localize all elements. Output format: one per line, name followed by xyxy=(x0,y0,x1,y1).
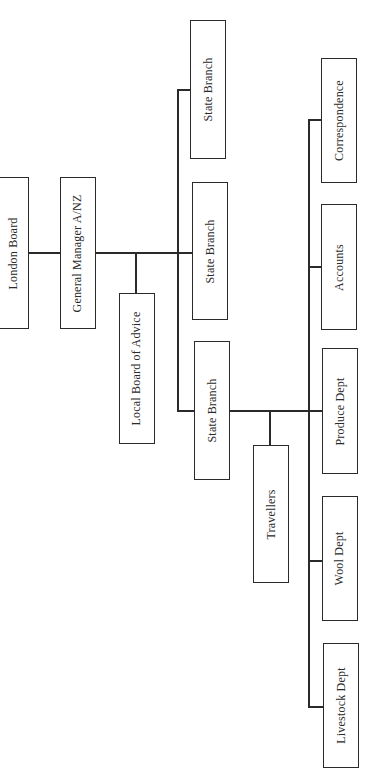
node-label: Wool Dept xyxy=(333,532,348,586)
node-label: Produce Dept xyxy=(333,377,348,445)
node-label: London Board xyxy=(6,217,21,289)
node-accounts: Accounts xyxy=(321,204,357,330)
node-label: Local Board of Advice xyxy=(130,312,145,426)
connector-branch-top xyxy=(177,89,190,91)
connector-travellers xyxy=(269,410,271,445)
node-general-manager: General Manager A/NZ xyxy=(60,177,96,329)
connector-branch-trunk xyxy=(177,89,179,411)
connector-produce xyxy=(308,410,322,412)
node-local-board-of-advice: Local Board of Advice xyxy=(119,293,155,444)
connector-livestock xyxy=(308,706,323,708)
node-state-branch-mid: State Branch xyxy=(192,182,228,320)
node-label: Accounts xyxy=(332,244,347,291)
node-label: General Manager A/NZ xyxy=(71,194,86,312)
node-london-board: London Board xyxy=(0,177,29,329)
connector-london-gm xyxy=(29,252,60,254)
node-label: Correspondence xyxy=(332,80,347,161)
connector-local-board xyxy=(135,252,137,293)
connector-wool xyxy=(308,560,322,562)
node-label: State Branch xyxy=(205,378,220,442)
connector-branch-bottom xyxy=(177,410,194,412)
node-label: Travellers xyxy=(264,489,279,539)
node-label: State Branch xyxy=(201,57,216,121)
node-produce-dept: Produce Dept xyxy=(322,348,358,474)
node-state-branch-bottom: State Branch xyxy=(194,341,230,480)
node-livestock-dept: Livestock Dept xyxy=(323,643,359,768)
node-label: State Branch xyxy=(203,219,218,283)
node-travellers: Travellers xyxy=(253,445,289,583)
node-label: Livestock Dept xyxy=(334,667,349,743)
node-wool-dept: Wool Dept xyxy=(322,496,358,621)
connector-dept-trunk xyxy=(308,119,310,707)
node-state-branch-top: State Branch xyxy=(190,20,226,159)
node-correspondence: Correspondence xyxy=(321,58,357,183)
connector-correspondence xyxy=(308,119,321,121)
connector-accounts xyxy=(308,266,321,268)
